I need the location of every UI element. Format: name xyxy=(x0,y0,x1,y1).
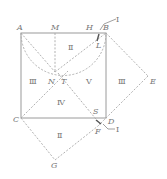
piece-i-bottom xyxy=(96,120,101,124)
segment-be xyxy=(106,33,148,76)
region-iv: Ⅳ xyxy=(57,98,66,107)
label-f: F xyxy=(94,127,101,136)
label-e: E xyxy=(149,77,156,86)
label-a: A xyxy=(16,23,23,32)
segment-an xyxy=(21,33,55,72)
label-b: B xyxy=(102,23,109,32)
callout-i-bottom: Ⅰ xyxy=(116,125,119,134)
segment-nb xyxy=(55,33,106,72)
label-l: L xyxy=(95,41,101,50)
region-ii-bottom: Ⅱ xyxy=(57,131,62,140)
label-n: N xyxy=(47,77,56,86)
label-t: T xyxy=(61,77,67,86)
region-v: Ⅴ xyxy=(85,77,92,86)
label-c: C xyxy=(13,115,19,124)
geometry-diagram: A M H B L N T E C S D F G Ⅱ Ⅲ Ⅴ Ⅲ Ⅳ Ⅱ Ⅰ … xyxy=(0,0,167,179)
region-ii-top: Ⅱ xyxy=(68,43,73,52)
region-iii-left: Ⅲ xyxy=(29,77,37,86)
label-g: G xyxy=(51,161,58,170)
segment-cg xyxy=(21,118,55,160)
label-d: D xyxy=(107,117,115,126)
label-m: M xyxy=(50,23,60,32)
label-s: S xyxy=(93,107,99,116)
piece-i-top xyxy=(97,34,99,41)
label-h: H xyxy=(85,23,94,32)
region-iii-right: Ⅲ xyxy=(118,77,126,86)
callout-i-top: Ⅰ xyxy=(116,15,119,24)
semicircle-ab xyxy=(21,33,106,76)
